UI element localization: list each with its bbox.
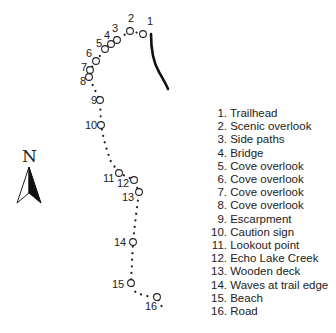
legend-item: 15. Beach	[210, 292, 328, 305]
legend-number: 6.	[210, 173, 227, 186]
trail-path	[89, 31, 162, 307]
legend-label: Echo Lake Creek	[230, 252, 318, 264]
legend-item: 4. Bridge	[210, 147, 328, 160]
legend-label: Cove overlook	[230, 186, 304, 198]
point-label: 12	[117, 177, 129, 189]
legend-label: Caution sign	[230, 226, 294, 238]
point-marker-icon	[86, 74, 93, 81]
legend-label: Wooden deck	[230, 265, 300, 277]
point-label: 1	[147, 15, 153, 27]
point-label: 5	[96, 37, 102, 49]
legend-number: 12.	[210, 252, 227, 265]
legend-number: 1.	[210, 107, 227, 120]
trail-point-2: 2	[127, 12, 135, 34]
legend-number: 7.	[210, 186, 227, 199]
legend-item: 10. Caution sign	[210, 226, 328, 239]
point-label: 7	[81, 61, 87, 73]
point-marker-icon	[131, 177, 138, 184]
legend-item: 9. Escarpment	[210, 213, 328, 226]
legend-label: Road	[230, 305, 258, 317]
north-arrow-icon	[17, 167, 41, 203]
legend-item: 16. Road	[210, 305, 328, 318]
legend-item: 12. Echo Lake Creek	[210, 252, 328, 265]
legend-item: 14. Waves at trail edge	[210, 279, 328, 292]
legend-item: 8. Cove overlook	[210, 199, 328, 212]
point-marker-icon	[87, 67, 94, 74]
point-label: 15	[112, 278, 124, 290]
point-marker-icon	[97, 97, 104, 104]
point-label: 11	[103, 172, 114, 184]
point-label: 13	[122, 191, 134, 203]
legend-item: 11. Lookout point	[210, 239, 328, 252]
map-legend: 1. Trailhead2. Scenic overlook3. Side pa…	[210, 107, 328, 318]
point-marker-icon	[108, 41, 115, 48]
trail-point-7: 7	[81, 61, 93, 73]
point-label: 9	[91, 94, 97, 106]
legend-item: 5. Cove overlook	[210, 160, 328, 173]
road-line	[151, 34, 168, 89]
legend-label: Bridge	[230, 147, 263, 159]
point-marker-icon	[140, 31, 147, 38]
legend-item: 6. Cove overlook	[210, 173, 328, 186]
legend-label: Scenic overlook	[230, 120, 311, 132]
legend-item: 2. Scenic overlook	[210, 120, 328, 133]
point-marker-icon	[130, 239, 137, 246]
point-marker-icon	[128, 280, 135, 287]
point-label: 2	[128, 12, 134, 24]
legend-label: Escarpment	[230, 213, 291, 225]
legend-number: 8.	[210, 199, 227, 212]
point-label: 16	[145, 300, 157, 312]
point-marker-icon	[116, 170, 123, 177]
point-marker-icon	[98, 122, 105, 129]
trail-point-12: 12	[117, 177, 137, 189]
point-marker-icon	[114, 37, 121, 44]
trail-point-3: 3	[112, 22, 120, 43]
legend-label: Cove overlook	[230, 160, 304, 172]
legend-number: 14.	[210, 279, 227, 292]
legend-number: 10.	[210, 226, 227, 239]
legend-label: Side paths	[230, 133, 284, 145]
legend-item: 7. Cove overlook	[210, 186, 328, 199]
point-marker-icon	[127, 28, 134, 35]
legend-number: 9.	[210, 213, 227, 226]
legend-number: 13.	[210, 265, 227, 278]
legend-number: 5.	[210, 160, 227, 173]
trail-point-8: 8	[80, 74, 92, 87]
trail-point-6: 6	[86, 47, 99, 64]
trail-point-13: 13	[122, 189, 142, 203]
legend-number: 2.	[210, 120, 227, 133]
legend-label: Cove overlook	[230, 199, 304, 211]
point-label: 14	[114, 236, 126, 248]
trail-points: 12345678910111213141516	[80, 12, 160, 312]
legend-number: 4.	[210, 147, 227, 160]
legend-label: Cove overlook	[230, 173, 304, 185]
legend-number: 3.	[210, 133, 227, 146]
legend-item: 13. Wooden deck	[210, 265, 328, 278]
point-label: 3	[112, 22, 118, 34]
trail-point-9: 9	[91, 94, 103, 106]
legend-label: Trailhead	[230, 107, 278, 119]
legend-label: Lookout point	[230, 239, 299, 251]
point-label: 4	[104, 29, 110, 41]
point-marker-icon	[93, 58, 100, 65]
point-marker-icon	[102, 46, 109, 53]
point-marker-icon	[136, 189, 143, 196]
legend-number: 15.	[210, 292, 227, 305]
legend-number: 16.	[210, 305, 227, 318]
legend-item: 3. Side paths	[210, 133, 328, 146]
point-label: 6	[86, 47, 92, 59]
point-label: 10	[85, 119, 97, 131]
point-label: 8	[80, 75, 86, 87]
legend-label: Beach	[230, 292, 263, 304]
trail-point-15: 15	[112, 278, 134, 290]
north-label: N	[22, 146, 37, 166]
legend-label: Waves at trail edge	[230, 279, 328, 291]
legend-number: 11.	[210, 239, 227, 252]
legend-item: 1. Trailhead	[210, 107, 328, 120]
